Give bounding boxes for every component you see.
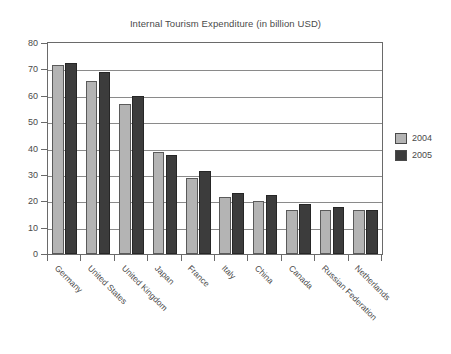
- x-axis-label-russian-federation: Russian Federation: [320, 263, 379, 322]
- bar-netherlands-2005: [366, 210, 378, 254]
- legend-item-label: 2004: [412, 133, 432, 143]
- bar-group: [315, 43, 348, 254]
- dark-gray-swatch: [395, 150, 407, 161]
- bar-france-2004: [186, 178, 198, 254]
- x-axis-tick-mark: [381, 255, 382, 261]
- x-axis-tick-mark: [214, 255, 215, 261]
- bar-germany-2004: [52, 65, 64, 254]
- y-axis-tick-label: 60: [8, 91, 38, 101]
- x-axis-label-france: France: [186, 263, 212, 289]
- bar-russian-federation-2004: [320, 210, 332, 254]
- y-axis-tick-label: 30: [8, 170, 38, 180]
- y-axis-tick-label: 0: [8, 249, 38, 259]
- bar-netherlands-2004: [353, 210, 365, 254]
- x-axis-tick-marks: [47, 255, 383, 261]
- bar-group: [282, 43, 315, 254]
- bar-chart: Internal Tourism Expenditure (in billion…: [0, 0, 451, 354]
- x-axis-tick-mark: [247, 255, 248, 261]
- chart-legend: 20042005: [395, 131, 447, 165]
- bars-layer: [48, 43, 382, 254]
- bar-italy-2004: [219, 197, 231, 254]
- x-axis-tick-mark: [181, 255, 182, 261]
- bar-group: [81, 43, 114, 254]
- x-axis-label-canada: Canada: [286, 263, 314, 291]
- bar-group: [148, 43, 181, 254]
- y-axis-tick-label: 50: [8, 117, 38, 127]
- bar-china-2004: [253, 201, 265, 254]
- x-axis-tick-mark: [314, 255, 315, 261]
- bar-group: [248, 43, 281, 254]
- bar-united-states-2004: [86, 81, 98, 254]
- x-axis-tick-mark: [348, 255, 349, 261]
- bar-group: [115, 43, 148, 254]
- y-axis-tick-label: 70: [8, 64, 38, 74]
- x-axis-label-china: China: [253, 263, 276, 286]
- legend-item-label: 2005: [412, 150, 432, 160]
- bar-united-states-2005: [99, 72, 111, 254]
- bar-italy-2005: [232, 193, 244, 254]
- bar-germany-2005: [65, 63, 77, 254]
- bar-group: [48, 43, 81, 254]
- light-gray-swatch: [395, 133, 407, 144]
- bar-canada-2004: [286, 210, 298, 254]
- bar-united-kingdom-2004: [119, 104, 131, 254]
- y-axis-tick-label: 40: [8, 144, 38, 154]
- bar-china-2005: [266, 195, 278, 254]
- y-axis-tick-label: 10: [8, 223, 38, 233]
- bar-canada-2005: [299, 204, 311, 254]
- y-axis-tick-label: 80: [8, 38, 38, 48]
- x-axis-tick-mark: [281, 255, 282, 261]
- chart-title: Internal Tourism Expenditure (in billion…: [0, 18, 451, 29]
- bar-japan-2005: [166, 155, 178, 254]
- bar-japan-2004: [153, 152, 165, 254]
- x-axis-label-japan: Japan: [153, 263, 176, 286]
- bar-united-kingdom-2005: [132, 96, 144, 254]
- x-axis-labels: GermanyUnited StatesUnited KingdomJapanF…: [47, 263, 383, 353]
- bar-group: [215, 43, 248, 254]
- bar-france-2005: [199, 171, 211, 254]
- x-axis-label-italy: Italy: [220, 263, 238, 281]
- legend-item-2005: 2005: [395, 148, 447, 162]
- x-axis-tick-mark: [80, 255, 81, 261]
- bar-russian-federation-2005: [333, 207, 345, 254]
- x-axis-tick-mark: [114, 255, 115, 261]
- x-axis-label-germany: Germany: [53, 263, 85, 295]
- x-axis-tick-mark: [147, 255, 148, 261]
- legend-item-2004: 2004: [395, 131, 447, 145]
- x-axis-tick-mark: [47, 255, 48, 261]
- bar-group: [182, 43, 215, 254]
- y-axis-tick-label: 20: [8, 196, 38, 206]
- bar-group: [349, 43, 382, 254]
- y-axis-labels: 01020304050607080: [8, 42, 38, 255]
